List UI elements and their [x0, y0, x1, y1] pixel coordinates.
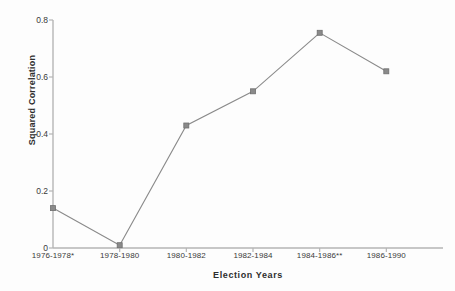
data-point-marker — [251, 89, 256, 94]
data-line — [53, 33, 386, 245]
data-markers — [51, 30, 389, 247]
data-point-marker — [51, 206, 56, 211]
x-axis-tick-label: 1978-1980 — [100, 251, 139, 260]
data-point-marker — [384, 69, 389, 74]
x-axis-tick-label: 1984-1986** — [297, 251, 343, 260]
x-axis-tick-label: 1976-1978* — [32, 251, 74, 260]
data-point-marker — [117, 243, 122, 248]
data-point-marker — [184, 123, 189, 128]
x-axis-tick-label: 1982-1984 — [233, 251, 272, 260]
chart-figure: Squared Correlation 00.20.40.60.8 1976-1… — [0, 0, 455, 291]
x-axis-title: Election Years — [53, 270, 443, 280]
x-axis-tick-label: 1980-1982 — [167, 251, 206, 260]
axis-lines — [53, 20, 443, 248]
data-point-marker — [317, 30, 322, 35]
x-axis-tick-label: 1986-1990 — [367, 251, 406, 260]
x-axis-tick-labels: 1976-1978*1978-19801980-19821982-1984198… — [0, 251, 455, 265]
plot-area — [0, 0, 455, 291]
